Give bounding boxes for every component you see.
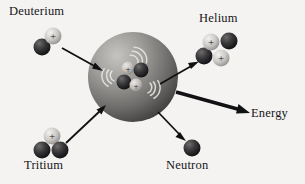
- label-helium: Helium: [199, 11, 238, 26]
- arrow-energy-out: [176, 92, 250, 114]
- fusion-diagram: + + +: [0, 0, 305, 184]
- svg-text:+: +: [208, 36, 214, 48]
- svg-text:+: +: [49, 130, 55, 142]
- label-tritium: Tritium: [24, 158, 63, 173]
- svg-text:+: +: [125, 64, 130, 74]
- svg-text:+: +: [218, 52, 224, 64]
- arrow-neutron-out: [158, 112, 186, 141]
- helium-particles: + +: [196, 33, 238, 67]
- label-energy: Energy: [251, 106, 288, 121]
- label-deuterium: Deuterium: [9, 4, 64, 19]
- deuterium-particles: +: [34, 28, 62, 56]
- svg-text:+: +: [133, 81, 138, 91]
- neutron-particle: [184, 140, 201, 157]
- tritium-particles: +: [34, 128, 69, 159]
- arrow-tritium-in: [66, 105, 106, 143]
- svg-text:+: +: [50, 30, 56, 42]
- diagram-canvas: + + +: [0, 0, 305, 184]
- label-neutron: Neutron: [166, 158, 208, 173]
